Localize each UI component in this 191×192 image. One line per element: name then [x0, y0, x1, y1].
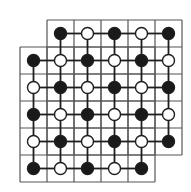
grid-node-diagram: [0, 0, 191, 192]
white-node: [136, 28, 148, 40]
white-node: [82, 136, 94, 148]
black-node: [163, 28, 175, 40]
white-node: [109, 109, 121, 121]
black-node: [163, 136, 175, 148]
black-node: [109, 28, 121, 40]
white-node: [163, 109, 175, 121]
black-node: [28, 55, 40, 67]
white-node: [163, 55, 175, 67]
black-node: [82, 163, 94, 175]
white-node: [55, 55, 67, 67]
black-node: [136, 55, 148, 67]
white-node: [55, 109, 67, 121]
black-node: [82, 109, 94, 121]
black-node: [55, 28, 67, 40]
white-node: [109, 55, 121, 67]
white-node: [82, 28, 94, 40]
black-node: [55, 82, 67, 94]
black-node: [28, 163, 40, 175]
white-node: [28, 82, 40, 94]
black-node: [163, 82, 175, 94]
black-node: [109, 136, 121, 148]
white-node: [28, 136, 40, 148]
black-node: [109, 82, 121, 94]
black-node: [82, 55, 94, 67]
white-node: [136, 82, 148, 94]
grid-lines: [20, 20, 182, 182]
white-node: [55, 163, 67, 175]
white-node: [136, 136, 148, 148]
white-node: [109, 163, 121, 175]
black-node: [136, 109, 148, 121]
black-node: [136, 163, 148, 175]
white-node: [82, 82, 94, 94]
black-node: [28, 109, 40, 121]
black-node: [55, 136, 67, 148]
